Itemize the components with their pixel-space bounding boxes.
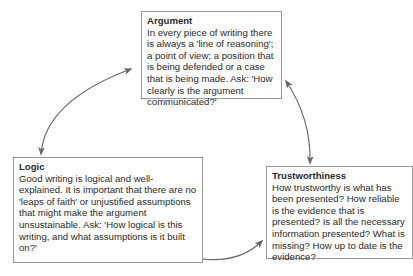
node-argument: Argument In every piece of writing there… (141, 11, 282, 99)
arrow-argument-trustworthiness (286, 81, 310, 163)
arrow-logic-argument (41, 69, 131, 154)
node-title: Logic (19, 161, 197, 173)
node-title: Trustworthiness (272, 170, 407, 182)
node-body: In every piece of writing there is alway… (147, 27, 276, 108)
node-body: How trustworthy is what has been present… (272, 182, 407, 263)
node-body: Good writing is logical and well-explain… (19, 173, 197, 254)
node-trustworthiness: Trustworthiness How trustworthy is what … (266, 166, 413, 259)
node-title: Argument (147, 15, 276, 27)
node-logic: Logic Good writing is logical and well-e… (13, 157, 203, 263)
